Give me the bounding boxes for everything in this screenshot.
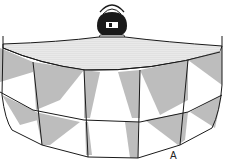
cape-diagram [0,0,227,167]
figure-label: A [170,150,177,161]
head-figure [97,5,127,38]
